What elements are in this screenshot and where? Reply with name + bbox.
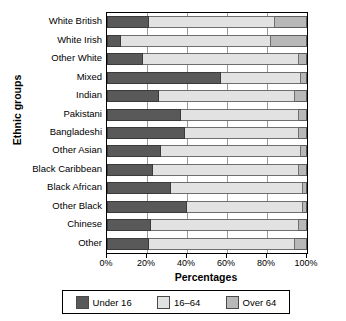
- bar-segment: [107, 109, 181, 121]
- bar-segment: [107, 35, 121, 47]
- y-axis-category-label: White Irish: [18, 35, 102, 45]
- legend-label: Over 64: [243, 297, 277, 308]
- stacked-bar-chart: Ethnic groups White BritishWhite IrishOt…: [0, 0, 346, 321]
- bar-row: [107, 164, 307, 176]
- bar-row: [107, 127, 307, 139]
- bar-row: [107, 109, 307, 121]
- bar-segment: [107, 127, 185, 139]
- y-axis-category-labels: White BritishWhite IrishOther WhiteMixed…: [18, 12, 102, 252]
- bar-segment: [301, 72, 307, 84]
- bar-row: [107, 201, 307, 213]
- y-axis-category-label: Bangladeshi: [18, 127, 102, 137]
- bar-row: [107, 90, 307, 102]
- bar-segment: [271, 35, 307, 47]
- bar-row: [107, 219, 307, 231]
- bar-row: [107, 182, 307, 194]
- y-axis-category-label: Other White: [18, 53, 102, 63]
- bar-segment: [149, 238, 295, 250]
- x-axis-tick-label: 40%: [166, 258, 206, 268]
- x-axis-tick-label: 80%: [246, 258, 286, 268]
- bar-segment: [299, 127, 307, 139]
- x-axis-tick-label: 0%: [86, 258, 126, 268]
- bar-row: [107, 72, 307, 84]
- y-axis-category-label: Black Caribbean: [18, 164, 102, 174]
- x-axis-tick-label: 100%: [286, 258, 326, 268]
- legend-item: Under 16: [76, 296, 132, 309]
- bar-segment: [107, 219, 151, 231]
- bar-segment: [171, 182, 303, 194]
- bar-segment: [149, 16, 275, 28]
- legend-swatch-icon: [76, 296, 89, 309]
- bar-segment: [299, 164, 307, 176]
- bar-segment: [107, 145, 161, 157]
- bar-row: [107, 145, 307, 157]
- y-axis-category-label: Indian: [18, 90, 102, 100]
- y-axis-category-label: Other Black: [18, 201, 102, 211]
- bar-segment: [159, 90, 295, 102]
- y-axis-category-label: Other Asian: [18, 145, 102, 155]
- legend-item: Over 64: [226, 296, 277, 309]
- bar-segment: [107, 16, 149, 28]
- bar-segment: [151, 219, 299, 231]
- bar-segment: [295, 90, 307, 102]
- legend-label: 16–64: [174, 297, 200, 308]
- bar-segment: [107, 164, 153, 176]
- bar-segment: [221, 72, 301, 84]
- bar-segment: [107, 182, 171, 194]
- bar-segment: [301, 145, 307, 157]
- bar-segment: [153, 164, 299, 176]
- bar-segment: [187, 201, 303, 213]
- bar-segment: [143, 53, 299, 65]
- y-axis-category-label: White British: [18, 16, 102, 26]
- bar-segment: [299, 219, 307, 231]
- y-axis-category-label: Pakistani: [18, 109, 102, 119]
- x-axis-tick-label: 20%: [126, 258, 166, 268]
- y-axis-category-label: Chinese: [18, 219, 102, 229]
- x-axis-tick-label: 60%: [206, 258, 246, 268]
- bar-segment: [121, 35, 271, 47]
- legend-item: 16–64: [157, 296, 200, 309]
- y-axis-category-label: Black African: [18, 182, 102, 192]
- bar-segment: [107, 72, 221, 84]
- bar-segment: [275, 16, 307, 28]
- bar-segment: [185, 127, 299, 139]
- y-axis-category-label: Mixed: [18, 72, 102, 82]
- chart-legend: Under 1616–64Over 64: [62, 290, 290, 314]
- bar-segment: [303, 201, 307, 213]
- bar-segment: [161, 145, 301, 157]
- x-axis-title: Percentages: [106, 271, 306, 283]
- bar-segment: [107, 90, 159, 102]
- bar-segment: [107, 238, 149, 250]
- legend-swatch-icon: [157, 296, 170, 309]
- bar-row: [107, 238, 307, 250]
- bar-segment: [299, 53, 307, 65]
- plot-area: [106, 12, 308, 254]
- bar-segment: [299, 109, 307, 121]
- bar-row: [107, 53, 307, 65]
- bar-row: [107, 16, 307, 28]
- bar-segment: [181, 109, 299, 121]
- bar-segment: [107, 53, 143, 65]
- bar-row: [107, 35, 307, 47]
- bar-segment: [295, 238, 307, 250]
- legend-swatch-icon: [226, 296, 239, 309]
- bar-segment: [303, 182, 307, 194]
- legend-label: Under 16: [93, 297, 132, 308]
- bar-segment: [107, 201, 187, 213]
- y-axis-category-label: Other: [18, 238, 102, 248]
